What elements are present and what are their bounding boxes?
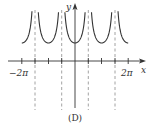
curve-branch: [38, 12, 58, 43]
y-axis-arrow-icon: [73, 3, 78, 10]
curve-branch: [92, 12, 112, 43]
x-axis-label: x: [141, 65, 146, 75]
function-graph: y x −2π 2π (D): [0, 0, 149, 124]
tick-label-2pi: 2π: [120, 68, 134, 78]
y-axis-label: y: [65, 2, 72, 12]
tick-label-neg-2pi: −2π: [9, 68, 29, 78]
curve-branch: [22, 11, 32, 43]
figure-caption: (D): [68, 113, 82, 123]
curve-branch: [118, 11, 128, 43]
